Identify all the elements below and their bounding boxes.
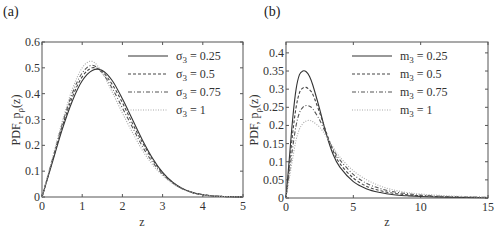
y-tick-label: 0.25 (263, 100, 284, 114)
x-tick-label: 3 (160, 199, 166, 213)
legend-entry: m3 = 0.75 (400, 85, 448, 101)
panel-b-label: (b) (264, 4, 281, 20)
series-curve (286, 87, 488, 198)
series-curve (42, 61, 243, 197)
panel-b-curves (286, 71, 488, 198)
series-curve (286, 120, 488, 198)
panel-b-xlabel: z (384, 215, 389, 229)
y-tick-label: 0.2 (269, 118, 284, 132)
panel-b-chart: (b) 05101500.050.10.150.20.250.30.350.4 … (247, 4, 494, 229)
panel-a-chart: (a) 01234500.10.20.30.40.50.6 σ3 = 0.25σ… (3, 4, 246, 229)
legend-entry: m3 = 0.25 (400, 49, 448, 65)
y-tick-label: 0 (34, 190, 40, 204)
panel-a-axes-box (42, 42, 243, 197)
panel-b-legend: m3 = 0.25m3 = 0.5m3 = 0.75m3 = 1 (352, 49, 448, 119)
x-tick-label: 15 (482, 200, 494, 214)
y-tick-label: 0.35 (263, 64, 284, 78)
y-tick-label: 0.6 (25, 35, 40, 49)
x-tick-label: 1 (79, 199, 85, 213)
y-tick-label: 0.5 (25, 61, 40, 75)
panel-a-xlabel: z (139, 215, 144, 229)
series-curve (286, 105, 488, 198)
y-tick-label: 0.15 (263, 137, 284, 151)
series-curve (286, 71, 488, 198)
y-tick-label: 0.1 (269, 155, 284, 169)
legend-entry: σ3 = 0.5 (176, 67, 215, 83)
figure: (a) 01234500.10.20.30.40.50.6 σ3 = 0.25σ… (0, 0, 503, 237)
x-tick-label: 5 (350, 200, 356, 214)
panel-a-legend: σ3 = 0.25σ3 = 0.5σ3 = 0.75σ3 = 1 (128, 49, 221, 119)
panel-a-ylabel: PDF, pρ(z) (9, 95, 25, 146)
y-tick-label: 0.4 (269, 46, 284, 60)
y-tick-label: 0.2 (25, 138, 40, 152)
y-tick-label: 0.3 (269, 82, 284, 96)
panel-a-label: (a) (3, 4, 19, 20)
x-tick-label: 5 (240, 199, 246, 213)
panel-a-curves (42, 61, 243, 197)
legend-entry: σ3 = 0.25 (176, 49, 221, 65)
legend-entry: σ3 = 1 (176, 103, 206, 119)
x-tick-label: 10 (415, 200, 427, 214)
legend-entry: m3 = 1 (400, 103, 433, 119)
panel-b-ylabel: PDF, pρ(z) (247, 95, 263, 146)
y-tick-label: 0.4 (25, 87, 40, 101)
y-tick-label: 0.05 (263, 173, 284, 187)
y-tick-label: 0 (278, 191, 284, 205)
y-tick-label: 0.3 (25, 113, 40, 127)
legend-entry: m3 = 0.5 (400, 67, 442, 83)
panel-b-axes-box (286, 42, 488, 198)
y-tick-label: 0.1 (25, 164, 40, 178)
x-tick-label: 4 (200, 199, 206, 213)
legend-entry: σ3 = 0.75 (176, 85, 221, 101)
x-tick-label: 2 (119, 199, 125, 213)
